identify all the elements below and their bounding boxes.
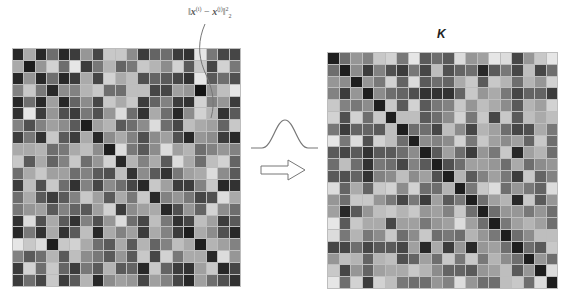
gaussian-curve-icon bbox=[251, 120, 318, 148]
leader-line bbox=[200, 24, 214, 118]
diagram-overlay bbox=[0, 0, 568, 301]
right-arrow-icon bbox=[261, 160, 305, 180]
